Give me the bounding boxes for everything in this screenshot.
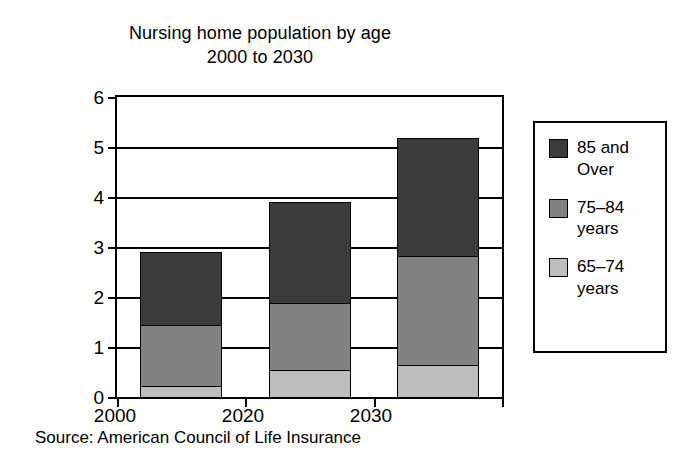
y-tick-mark-0 [108,397,117,399]
bar-segment-2000-85-and-over [140,252,222,325]
bar-segment-2020-75-84-years [269,303,351,370]
chart-title-line-2: 2000 to 2030 [0,46,520,70]
y-tick-mark-2 [108,297,117,299]
bar-2000 [140,252,222,397]
y-tick-mark-6 [108,97,117,99]
legend-item-75-84-years: 75–84 years [549,197,665,241]
y-tick-mark-4 [108,197,117,199]
chart-figure: Nursing home population by age 2000 to 2… [0,0,681,456]
bar-segment-2030-65-74-years [397,365,479,398]
chart-legend: 85 and Over 75–84 years 65–74 years [533,121,667,353]
legend-swatch-65-74-years [549,258,568,277]
y-tick-label-0: 0 [93,388,104,407]
legend-item-85-and-over: 85 and Over [549,137,665,181]
x-tick-label-2020: 2020 [183,405,303,427]
y-tick-label-3: 3 [93,238,104,257]
y-tick-label-1: 1 [93,338,104,357]
bar-segment-2000-65-74-years [140,386,222,398]
bar-segment-2000-75-84-years [140,325,222,386]
chart-title-line-1: Nursing home population by age [0,22,520,46]
legend-swatch-85-and-over [549,139,568,158]
bar-segment-2030-75-84-years [397,256,479,365]
y-tick-label-5: 5 [93,138,104,157]
y-tick-label-4: 4 [93,188,104,207]
x-tick-label-2000: 2000 [55,405,175,427]
bar-2020 [269,202,351,397]
bar-segment-2020-65-74-years [269,370,351,398]
y-tick-label-2: 2 [93,288,104,307]
bar-2030 [397,138,479,397]
bar-segment-2020-85-and-over [269,202,351,303]
x-tick-mark-3 [502,397,504,407]
x-tick-label-2030: 2030 [311,405,431,427]
legend-label-75-84-years: 75–84 years [577,197,624,241]
source-note: Source: American Council of Life Insuran… [35,428,361,448]
y-tick-mark-5 [108,147,117,149]
legend-item-65-74-years: 65–74 years [549,256,665,300]
y-tick-mark-3 [108,247,117,249]
legend-label-85-and-over: 85 and Over [577,137,629,181]
legend-swatch-75-84-years [549,199,568,218]
plot-area: 0123456 [115,95,504,399]
chart-title: Nursing home population by age 2000 to 2… [0,22,520,70]
legend-label-65-74-years: 65–74 years [577,256,624,300]
bar-segment-2030-85-and-over [397,138,479,256]
y-tick-label-6: 6 [93,88,104,107]
y-tick-mark-1 [108,347,117,349]
